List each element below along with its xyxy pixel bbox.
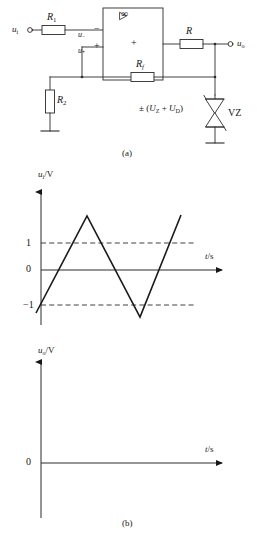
figure-drawing [0, 0, 257, 538]
zener-device-label: VZ [228, 108, 241, 118]
chart1-series-ui [36, 215, 181, 317]
chart2-x-axis-label: t/s [205, 445, 214, 454]
resistor-rf-body [131, 73, 154, 82]
panel-a-caption: (a) [122, 148, 132, 158]
zener-lower-triangle [206, 113, 224, 127]
zener-bar-top-tick [204, 96, 206, 100]
resistor-r2-label: R2 [57, 95, 67, 106]
circuit-panel [28, 8, 233, 143]
output-terminal-node [228, 42, 233, 47]
junction-dot-r2 [81, 76, 84, 79]
junction-dot-output [214, 43, 217, 46]
resistor-rf-label: Rf [136, 59, 144, 70]
opamp-output-sign: + [131, 38, 137, 48]
node-label-u-minus: u− [78, 31, 85, 40]
junction-dot-feedback [214, 76, 217, 79]
chart-uo-axes [41, 362, 222, 518]
panel-b-caption: (b) [122, 518, 133, 528]
zener-upper-triangle [206, 99, 224, 113]
output-terminal-label: uo [237, 39, 245, 49]
figure-container: ui R1 ∞ − + + u− u+ R2 R Rf uo ± (UZ + U… [0, 0, 257, 538]
resistor-r1-label: R1 [47, 12, 57, 23]
input-terminal-node [28, 28, 33, 33]
chart-ui-axes [41, 192, 222, 325]
resistor-r-body [180, 40, 203, 49]
chart2-y-axis-label: uo/V [38, 346, 55, 356]
opamp-noninverting-sign: + [94, 41, 100, 51]
chart1-y-axis-label: ui/V [38, 170, 53, 180]
chart1-ytick-1: 1 [26, 238, 31, 248]
zener-voltage-annotation: ± (UZ + UD) [139, 104, 183, 114]
resistor-r2-body [46, 90, 55, 113]
chart1-ytick-0: 0 [26, 264, 31, 274]
zener-bar-bottom-tick [224, 127, 226, 131]
resistor-r1-body [42, 26, 65, 35]
resistor-r-label: R [186, 26, 192, 36]
triangle-wave-trace [36, 215, 181, 317]
chart1-x-axis-label: t/s [205, 252, 214, 261]
input-terminal-label: ui [12, 25, 18, 35]
opamp-gain-symbol: ∞ [121, 9, 128, 19]
opamp-inverting-sign: − [94, 24, 100, 34]
chart2-ytick-0: 0 [26, 457, 31, 467]
chart1-ytick-minus1: −1 [23, 300, 34, 310]
node-label-u-plus: u+ [78, 47, 85, 56]
